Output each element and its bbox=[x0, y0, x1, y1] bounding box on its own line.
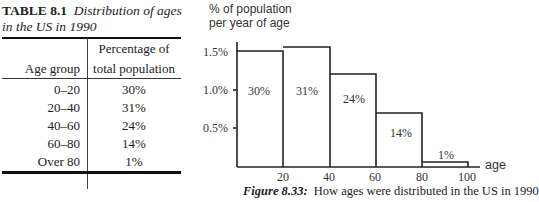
bar-label: 1% bbox=[438, 148, 454, 163]
x-tick-label: 60 bbox=[369, 170, 381, 185]
bar-label: 31% bbox=[296, 84, 318, 99]
bar-label: 30% bbox=[248, 84, 270, 99]
bar-label: 14% bbox=[390, 126, 412, 141]
figure-caption-text: How ages were distributed in the US in 1… bbox=[314, 184, 539, 198]
x-tick-label: 40 bbox=[323, 170, 335, 185]
bar-label: 24% bbox=[343, 92, 365, 107]
x-tick-label: 80 bbox=[416, 170, 428, 185]
x-tick-label: 20 bbox=[277, 170, 289, 185]
y-tick-label: 1.0% bbox=[203, 83, 228, 98]
bar-20-40 bbox=[283, 47, 330, 167]
figure-caption: Figure 8.33: How ages were distributed i… bbox=[243, 184, 539, 199]
y-tick-label: 1.5% bbox=[203, 45, 228, 60]
bar-0-20 bbox=[237, 51, 283, 167]
bar-40-60 bbox=[330, 74, 376, 167]
x-axis-label: age bbox=[485, 158, 506, 172]
y-tick-label: 0.5% bbox=[203, 121, 228, 136]
figure-label: Figure 8.33: bbox=[243, 184, 308, 198]
x-tick-label: 100 bbox=[458, 170, 476, 185]
